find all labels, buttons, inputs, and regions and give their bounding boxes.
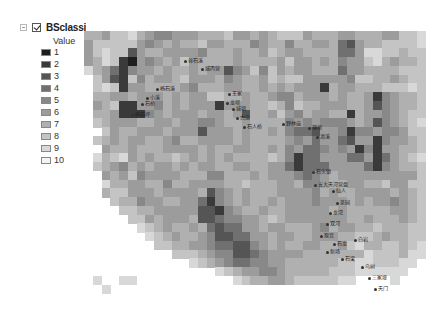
place-label: 茶园: [340, 199, 350, 205]
legend-swatch: [41, 121, 51, 128]
raster-cell: [102, 285, 111, 294]
place-marker-icon: [368, 277, 371, 280]
legend-swatch: [41, 97, 51, 104]
legend-item: 5: [41, 95, 59, 105]
legend-label: 10: [54, 155, 64, 165]
place-label: 双河: [330, 220, 340, 226]
place-marker-icon: [228, 93, 231, 96]
place-marker-icon: [282, 123, 285, 126]
place-marker-icon: [243, 126, 246, 129]
place-label: 城坝: [236, 105, 246, 111]
place-label: 天门: [378, 285, 388, 291]
place-marker-icon: [341, 258, 344, 261]
place-marker-icon: [316, 136, 319, 139]
place-label: 龙湾: [333, 209, 343, 215]
layer-header: BSclassi: [20, 21, 86, 33]
place-marker-icon: [232, 108, 235, 111]
place-marker-icon: [141, 103, 144, 106]
place-marker-icon: [226, 102, 229, 105]
place-label: 白岩: [358, 236, 368, 242]
place-label: 新场: [330, 248, 340, 254]
place-marker-icon: [236, 117, 239, 120]
place-label: 石龙: [337, 240, 347, 246]
place-label: 野林庙: [286, 120, 301, 126]
place-label: 仙人: [336, 187, 346, 193]
place-label: 王家: [232, 90, 242, 96]
map-canvas[interactable]: 谷石溪城丙营杨石溪小溪石桥杨石坪王家龙坝城坝古庙石人桥野林庙蒲坝清溪石头镇五大天…: [84, 22, 425, 305]
legend-item: 10: [41, 155, 64, 165]
place-label: 石梁: [345, 255, 355, 261]
place-label: 清溪: [320, 133, 330, 139]
place-marker-icon: [329, 212, 332, 215]
place-label: 杨石坪: [135, 111, 150, 117]
raster-cell: [417, 250, 426, 259]
place-marker-icon: [314, 184, 317, 187]
legend-item: 3: [41, 71, 59, 81]
place-marker-icon: [131, 114, 134, 117]
place-label: 杨石溪: [160, 85, 175, 91]
place-label: 三家垭: [372, 274, 387, 280]
legend-swatch: [41, 157, 51, 164]
place-marker-icon: [184, 60, 187, 63]
place-label: 观音: [324, 232, 334, 238]
legend-label: 7: [54, 119, 59, 129]
place-marker-icon: [326, 251, 329, 254]
legend-field-header: Value: [53, 36, 75, 46]
legend-item: 6: [41, 107, 59, 117]
place-marker-icon: [374, 288, 377, 291]
legend-item: 8: [41, 131, 59, 141]
legend-label: 9: [54, 143, 59, 153]
legend-swatch: [41, 133, 51, 140]
legend-item: 1: [41, 47, 59, 57]
place-label: 石桥: [145, 100, 155, 106]
legend-label: 1: [54, 47, 59, 57]
place-marker-icon: [361, 266, 364, 269]
collapse-icon[interactable]: [20, 24, 27, 31]
place-label: 乌树: [365, 263, 375, 269]
table-of-contents: BSclassi Value 12345678910: [0, 0, 80, 180]
legend-label: 2: [54, 59, 59, 69]
place-marker-icon: [332, 190, 335, 193]
place-label: 城丙营: [205, 65, 220, 71]
legend-swatch: [41, 73, 51, 80]
legend-item: 4: [41, 83, 59, 93]
legend-swatch: [41, 85, 51, 92]
place-label: 古庙: [240, 114, 250, 120]
legend-swatch: [41, 109, 51, 116]
layer-visibility-checkbox[interactable]: [32, 23, 41, 32]
legend-label: 6: [54, 107, 59, 117]
place-marker-icon: [156, 88, 159, 91]
place-label: 石人桥: [247, 123, 262, 129]
raster-cell: [408, 258, 417, 267]
place-marker-icon: [336, 202, 339, 205]
place-label: 石头镇: [316, 168, 331, 174]
legend-swatch: [41, 61, 51, 68]
legend-label: 3: [54, 71, 59, 81]
legend-item: 7: [41, 119, 59, 129]
legend-swatch: [41, 145, 51, 152]
legend-label: 8: [54, 131, 59, 141]
legend-item: 2: [41, 59, 59, 69]
legend-swatch: [41, 49, 51, 56]
place-marker-icon: [354, 239, 357, 242]
place-label: 蒲坝: [312, 124, 322, 130]
legend-label: 4: [54, 83, 59, 93]
place-marker-icon: [312, 171, 315, 174]
raster-cell: [399, 267, 408, 276]
place-marker-icon: [320, 235, 323, 238]
legend-item: 9: [41, 143, 59, 153]
place-marker-icon: [201, 68, 204, 71]
raster-cell: [347, 276, 356, 285]
place-label: 谷石溪: [188, 57, 203, 63]
raster-cell: [128, 276, 137, 285]
place-marker-icon: [308, 127, 311, 130]
legend-label: 5: [54, 95, 59, 105]
raster-cell: [390, 276, 399, 285]
place-marker-icon: [333, 243, 336, 246]
place-marker-icon: [326, 223, 329, 226]
layer-name[interactable]: BSclassi: [46, 22, 86, 33]
